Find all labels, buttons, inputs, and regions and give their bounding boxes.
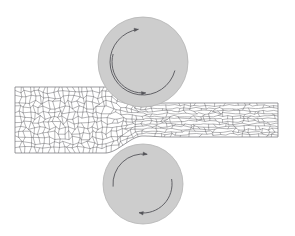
- figure-canvas: [0, 0, 295, 236]
- rolling-process-diagram: [0, 0, 295, 236]
- top-roll[interactable]: [98, 17, 188, 107]
- bottom-roll[interactable]: [103, 144, 183, 224]
